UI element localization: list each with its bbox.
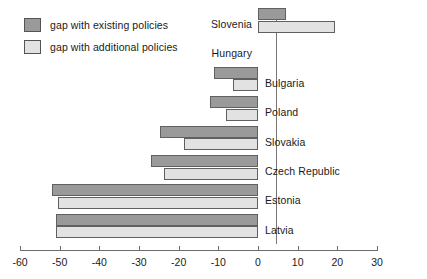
- bar-slovenia-existing: [258, 8, 286, 20]
- category-label-bulgaria: Bulgaria: [265, 77, 304, 89]
- bar-slovakia-existing: [160, 126, 258, 138]
- x-tick-4: [179, 246, 180, 251]
- bar-latvia-existing: [56, 214, 258, 226]
- bar-bulgaria-existing: [214, 67, 258, 79]
- category-label-slovakia: Slovakia: [265, 136, 306, 148]
- x-tick-1: [60, 246, 61, 251]
- x-tick-9: [377, 246, 378, 251]
- x-tick-label-8: 20: [331, 256, 343, 268]
- bar-estonia-existing: [52, 184, 258, 196]
- plot-area: SloveniaHungaryBulgariaPolandSlovakiaCze…: [0, 0, 427, 250]
- x-tick-label-3: -30: [131, 256, 146, 268]
- x-tick-label-4: -20: [171, 256, 186, 268]
- bar-poland-existing: [210, 96, 258, 108]
- x-tick-label-1: -50: [52, 256, 67, 268]
- category-label-estonia: Estonia: [265, 194, 301, 206]
- zero-axis-line: [276, 8, 277, 244]
- x-axis-line: [20, 250, 377, 251]
- x-tick-label-9: 30: [371, 256, 383, 268]
- x-tick-label-5: -10: [211, 256, 226, 268]
- x-tick-label-2: -40: [92, 256, 107, 268]
- x-tick-0: [20, 246, 21, 251]
- x-tick-3: [139, 246, 140, 251]
- bar-bulgaria-additional: [233, 79, 258, 91]
- x-tick-label-6: 0: [255, 256, 261, 268]
- bar-czech-republic-existing: [151, 155, 258, 167]
- category-label-poland: Poland: [265, 106, 298, 118]
- x-tick-7: [298, 246, 299, 251]
- bar-czech-republic-additional: [164, 168, 258, 180]
- x-tick-6: [258, 246, 259, 251]
- bar-latvia-additional: [56, 226, 258, 238]
- x-tick-8: [337, 246, 338, 251]
- category-label-hungary: Hungary: [212, 47, 252, 59]
- bar-poland-additional: [226, 109, 258, 121]
- category-label-slovenia: Slovenia: [211, 18, 252, 30]
- x-tick-5: [218, 246, 219, 251]
- category-label-latvia: Latvia: [265, 224, 294, 236]
- bar-estonia-additional: [58, 197, 258, 209]
- x-tick-2: [99, 246, 100, 251]
- bar-chart: gap with existing policies gap with addi…: [0, 0, 427, 279]
- bar-slovakia-additional: [184, 138, 258, 150]
- x-tick-label-7: 10: [292, 256, 304, 268]
- x-axis: -60-50-40-30-20-100102030: [0, 250, 427, 279]
- category-label-czech-republic: Czech Republic: [265, 165, 340, 177]
- x-tick-label-0: -60: [12, 256, 27, 268]
- bar-slovenia-additional: [258, 21, 335, 33]
